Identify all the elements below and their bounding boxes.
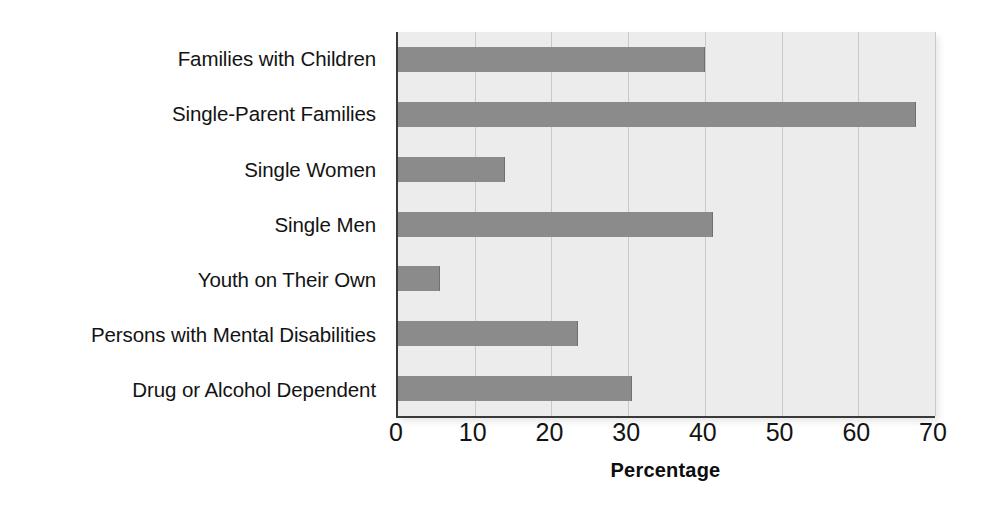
category-label-single-parent-families: Single-Parent Families	[172, 104, 376, 125]
x-tick-label: 70	[919, 420, 947, 445]
category-row: Drug or Alcohol Dependent	[0, 363, 386, 418]
category-label-single-men: Single Men	[274, 215, 376, 236]
bar-row	[398, 197, 935, 252]
bar-row	[398, 251, 935, 306]
bar-chart-figure: Families with Children Single-Parent Fam…	[0, 0, 996, 511]
x-tick-label: 30	[612, 420, 640, 445]
plot-area	[396, 32, 935, 418]
x-tick-label: 60	[842, 420, 870, 445]
category-row: Persons with Mental Disabilities	[0, 308, 386, 363]
bar-single-parent-families[interactable]	[398, 102, 916, 127]
value-axis: 010203040506070	[396, 420, 935, 454]
category-row: Families with Children	[0, 32, 386, 87]
category-axis: Families with Children Single-Parent Fam…	[0, 32, 386, 418]
category-label-single-women: Single Women	[244, 160, 376, 181]
x-tick-label: 20	[536, 420, 564, 445]
category-row: Single Women	[0, 142, 386, 197]
category-label-drug-or-alcohol-dependent: Drug or Alcohol Dependent	[132, 380, 376, 401]
category-label-persons-with-mental-disabilities: Persons with Mental Disabilities	[91, 325, 376, 346]
bar-row	[398, 142, 935, 197]
x-axis-title: Percentage	[396, 459, 935, 482]
bar-single-men[interactable]	[398, 212, 713, 237]
x-tick-label: 10	[459, 420, 487, 445]
bar-row	[398, 361, 935, 416]
bar-row	[398, 32, 935, 87]
category-label-families-with-children: Families with Children	[178, 49, 376, 70]
bar-row	[398, 306, 935, 361]
bar-drug-or-alcohol-dependent[interactable]	[398, 376, 632, 401]
category-row: Youth on Their Own	[0, 253, 386, 308]
bar-families-with-children[interactable]	[398, 47, 705, 72]
category-row: Single-Parent Families	[0, 87, 386, 142]
bar-persons-with-mental-disabilities[interactable]	[398, 321, 578, 346]
category-label-youth-on-their-own: Youth on Their Own	[198, 270, 376, 291]
category-row: Single Men	[0, 197, 386, 252]
x-tick-label: 50	[766, 420, 794, 445]
x-tick-label: 40	[689, 420, 717, 445]
bar-youth-on-their-own[interactable]	[398, 266, 440, 291]
x-tick-label: 0	[389, 420, 403, 445]
bars-layer	[398, 32, 935, 416]
bar-single-women[interactable]	[398, 157, 505, 182]
bar-row	[398, 87, 935, 142]
